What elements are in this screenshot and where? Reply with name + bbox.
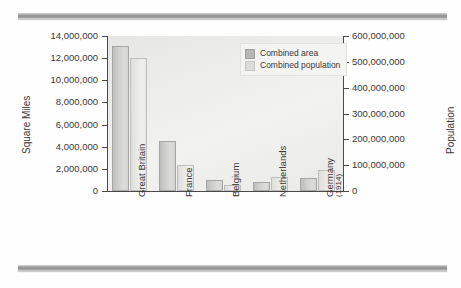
x-axis-category-label: Belgium <box>231 163 241 197</box>
x-axis-category-label: France <box>184 167 194 197</box>
category-labels: Great BritainFranceBelgiumNetherlandsGer… <box>0 26 461 261</box>
x-axis-category-label: Netherlands <box>278 146 288 197</box>
x-axis-category-label: Great Britain <box>137 144 147 197</box>
bottom-decorative-rule <box>18 265 447 271</box>
bar-chart: 02,000,0004,000,0006,000,0008,000,00010,… <box>0 26 461 261</box>
chart-page: 02,000,0004,000,0006,000,0008,000,00010,… <box>0 0 461 288</box>
x-axis-category-label: Germany(1914) <box>325 158 343 197</box>
top-decorative-rule <box>18 13 447 19</box>
